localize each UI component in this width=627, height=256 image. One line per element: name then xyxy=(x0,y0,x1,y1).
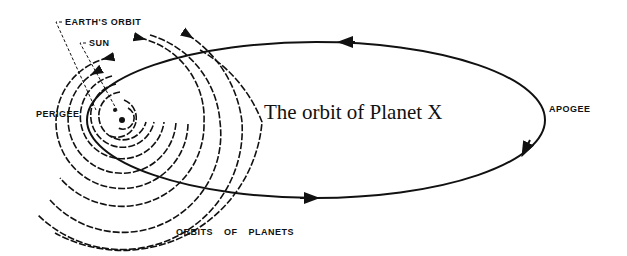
sun-label: SUN xyxy=(89,38,110,48)
planet-x-orbit-diagram: EARTH'S ORBIT SUN PERIGEE APOGEE ORBITS … xyxy=(0,0,627,256)
diagram-title: The orbit of Planet X xyxy=(264,100,442,125)
apogee-label: APOGEE xyxy=(549,104,591,114)
orbits-of-planets-label: ORBITS OF PLANETS xyxy=(176,227,294,237)
perigee-label: PERIGEE xyxy=(36,109,80,119)
sun-dot xyxy=(119,117,125,123)
earths-orbit-label: EARTH'S ORBIT xyxy=(65,17,141,27)
